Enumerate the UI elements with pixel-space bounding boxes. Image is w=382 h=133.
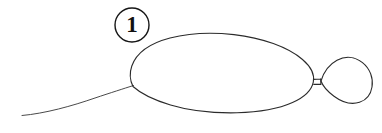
figure-canvas: 1: [0, 0, 382, 133]
figure-illustration: 1: [0, 0, 382, 133]
callout-label: 1: [126, 12, 138, 37]
figure-background: [0, 0, 382, 133]
callout-1: 1: [115, 8, 149, 42]
